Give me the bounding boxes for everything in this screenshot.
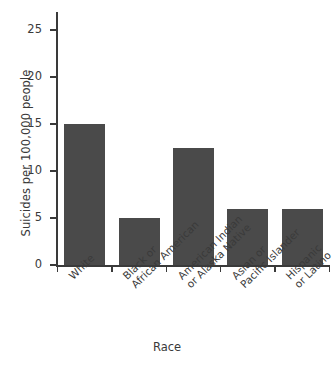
bars-layer — [0, 0, 334, 365]
x-tick-mark — [166, 266, 168, 272]
x-tick-mark — [220, 266, 222, 272]
x-tick-mark — [329, 266, 331, 272]
x-tick-mark — [111, 266, 113, 272]
x-tick-mark — [57, 266, 59, 272]
x-tick-mark — [274, 266, 276, 272]
bar-chart: Suicides per 100,000 people 2520151050 W… — [0, 0, 334, 365]
bar — [64, 124, 105, 265]
x-axis-title: Race — [0, 340, 334, 354]
